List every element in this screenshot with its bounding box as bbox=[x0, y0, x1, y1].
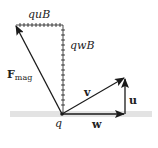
v-label: v bbox=[83, 86, 91, 99]
u-label: u bbox=[129, 94, 137, 107]
charge-point bbox=[60, 112, 64, 116]
qwB-label: qwB bbox=[70, 39, 95, 52]
q-label: q bbox=[55, 117, 62, 130]
v-vector bbox=[62, 78, 124, 114]
diagram-canvas: quB qwB Fmag v u w q bbox=[0, 0, 158, 148]
f-mag-vector bbox=[16, 26, 62, 114]
qwB-component-line bbox=[61, 25, 65, 114]
w-label: w bbox=[91, 118, 102, 131]
f-mag-label: Fmag bbox=[7, 68, 32, 82]
quB-component-line bbox=[16, 23, 63, 27]
quB-label: quB bbox=[28, 8, 50, 21]
vector-diagram: quB qwB Fmag v u w q bbox=[0, 0, 158, 148]
